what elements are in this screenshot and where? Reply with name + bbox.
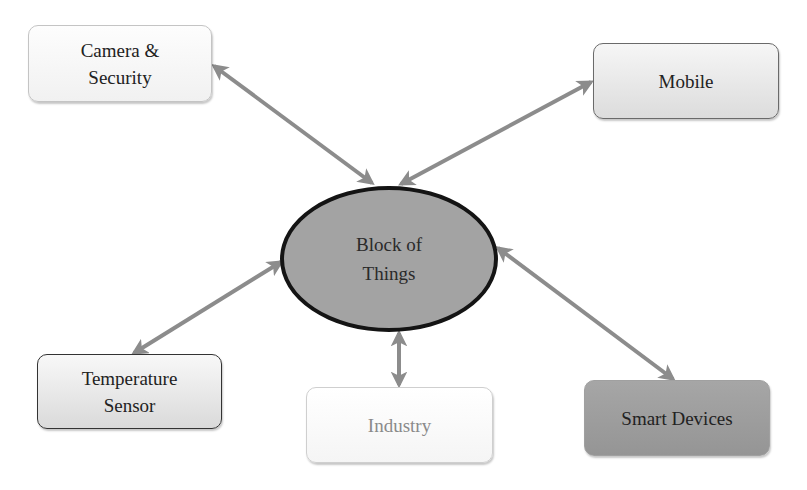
node-label: Mobile [659,68,714,95]
node-label: Industry [368,412,431,439]
node-label-line1: Temperature [82,365,178,392]
node-smart-devices: Smart Devices [584,380,770,456]
arrow-center-smart-devices [498,248,673,379]
node-label-line2: Sensor [82,392,178,419]
arrow-center-temperature [134,262,281,353]
diagram-canvas: Camera & Security Mobile Block of Things… [0,0,807,490]
node-label-line2: Security [81,64,160,91]
node-temperature-sensor: Temperature Sensor [37,354,222,429]
node-label-line1: Camera & [81,37,160,64]
center-label-line1: Block of [356,230,422,259]
arrow-center-camera [214,66,372,183]
node-label: Smart Devices [621,405,732,432]
node-camera-security: Camera & Security [28,25,212,102]
center-label-line2: Things [356,259,422,288]
node-mobile: Mobile [593,43,779,119]
arrow-center-mobile [401,82,591,184]
node-industry: Industry [306,387,493,463]
node-block-of-things: Block of Things [280,186,498,332]
